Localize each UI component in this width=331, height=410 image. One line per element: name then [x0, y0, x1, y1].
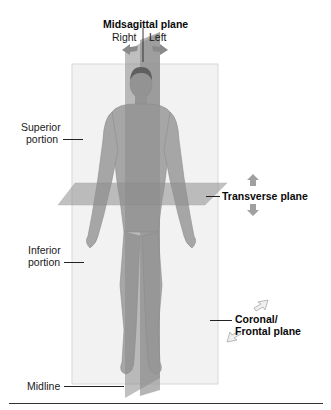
superior-portion-label-line1: Superior [21, 121, 61, 133]
right-side-label: Right [112, 31, 137, 43]
superior-portion-label-line2: portion [26, 133, 58, 145]
inferior-portion-label-line2: portion [28, 256, 60, 268]
down-arrow-icon [247, 204, 259, 216]
midsagittal-plane-front [125, 32, 160, 398]
superior-portion-leader [63, 139, 83, 140]
inferior-portion-leader [64, 262, 84, 263]
anatomy-illustration [0, 0, 331, 410]
midline-label: Midline [27, 380, 60, 392]
bottom-divider [9, 403, 323, 404]
transverse-plane-leader [206, 196, 220, 197]
coronal-plane-leader [210, 320, 232, 321]
coronal-plane-label-line1: Coronal/ [235, 313, 278, 325]
midsagittal-plane-label: Midsagittal plane [103, 18, 188, 30]
coronal-back-arrow-icon [254, 300, 268, 311]
up-arrow-icon [247, 174, 259, 186]
midline-leader [64, 386, 124, 387]
transverse-plane-label: Transverse plane [222, 190, 308, 202]
inferior-portion-label-line1: Inferior [28, 244, 61, 256]
coronal-plane-label-line2: Frontal plane [235, 325, 301, 337]
left-side-label: Left [149, 31, 167, 43]
